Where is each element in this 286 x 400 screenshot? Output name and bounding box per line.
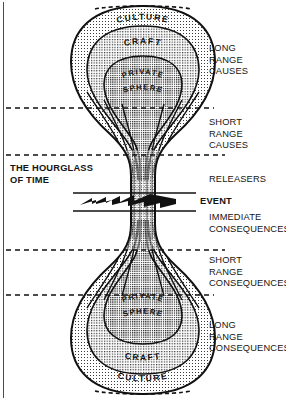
label-releasers: RELEASERS (209, 174, 266, 186)
label-long-range-consequences: LONG RANGE CONSEQUENCES (209, 320, 286, 355)
caption-hourglass-of-time: THE HOURGLASS OF TIME (10, 163, 93, 186)
label-short-range-consequences: SHORT RANGE CONSEQUENCES (209, 255, 286, 290)
figure-border-left (3, 2, 4, 398)
hourglass-of-time-figure: CULTURE CRAFT PRIVATE SPHERE PRIVATE SPH… (0, 0, 286, 400)
label-short-range-causes: SHORT RANGE CAUSES (209, 117, 248, 152)
label-event: EVENT (200, 196, 232, 208)
label-long-range-causes: LONG RANGE CAUSES (209, 43, 248, 78)
event-zigzag-glyph (80, 194, 176, 208)
label-immediate-consequences: IMMEDIATE CONSEQUENCES (209, 212, 286, 235)
